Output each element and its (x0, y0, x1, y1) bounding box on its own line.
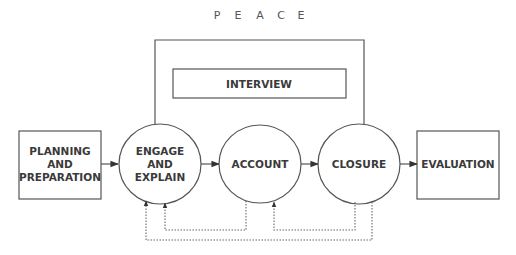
engage-label-3: EXPLAIN (135, 171, 185, 183)
planning-label-1: PLANNING (29, 145, 90, 157)
engage-label-1: ENGAGE (136, 145, 185, 157)
title-letter-e2: E (298, 9, 305, 22)
account-label: ACCOUNT (232, 158, 290, 170)
peace-diagram: P E A C E INTERVIEW PLANNING AND PREPARA… (0, 0, 516, 255)
feedback-account-engage (165, 201, 246, 230)
feedback-closure-account (274, 202, 355, 230)
engage-label-2: AND (147, 158, 173, 170)
title-letter-p: P (214, 9, 221, 22)
closure-label: CLOSURE (332, 158, 386, 170)
title-letter-c: C (277, 9, 285, 22)
title-letter-a: A (256, 9, 264, 22)
planning-label-3: PREPARATION (19, 171, 101, 183)
planning-label-2: AND (47, 158, 73, 170)
interview-label: INTERVIEW (226, 78, 292, 90)
evaluation-label: EVALUATION (421, 158, 494, 170)
title-letter-e: E (235, 9, 242, 22)
feedback-closure-engage (146, 201, 372, 240)
